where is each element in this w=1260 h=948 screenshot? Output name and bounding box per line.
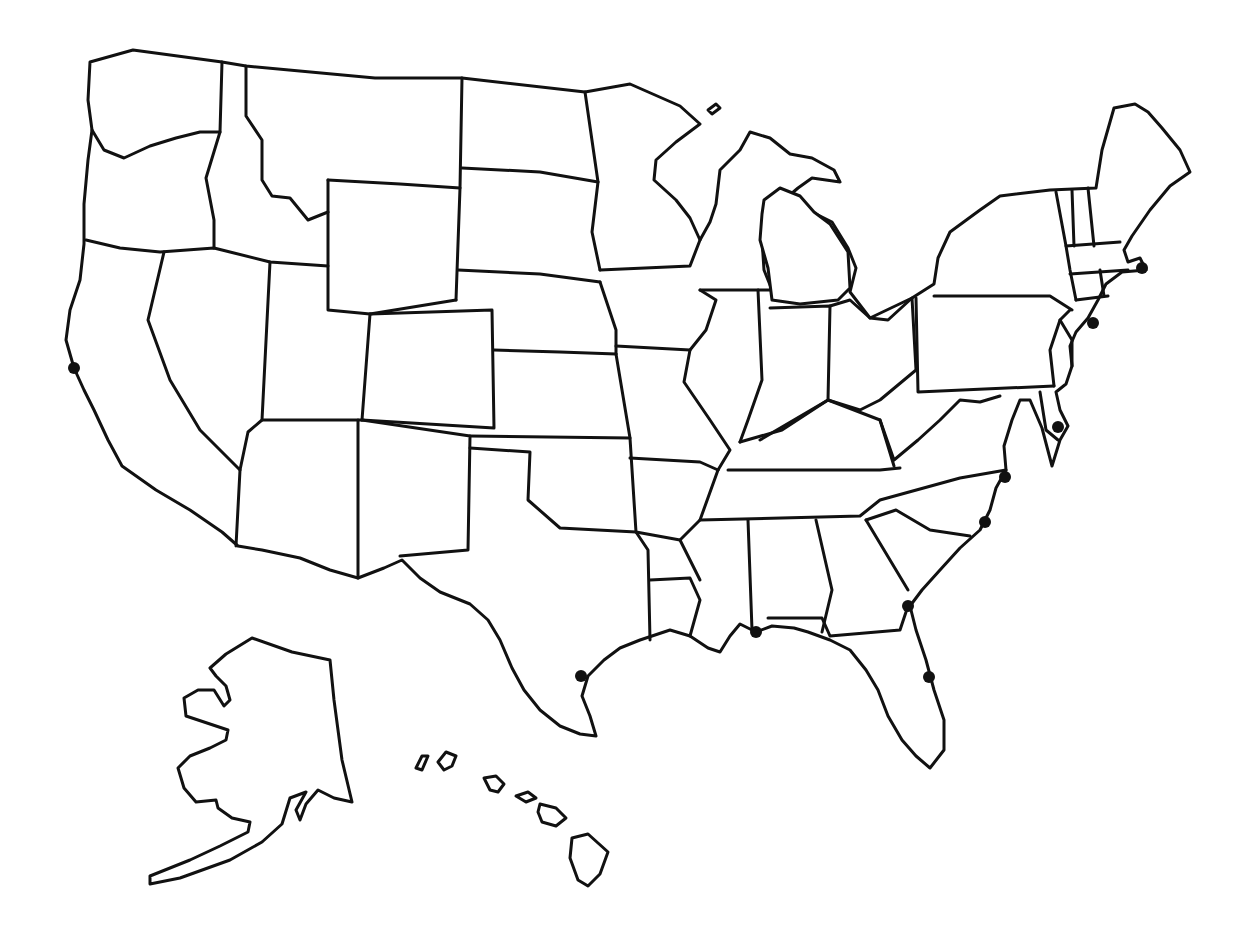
port-marker-savannah <box>902 600 914 612</box>
port-marker-delaware-bay <box>1052 421 1064 433</box>
alaska-outline <box>150 638 352 884</box>
map-canvas <box>0 0 1260 948</box>
port-marker-cape-canaveral <box>923 671 935 683</box>
port-marker-wilmington <box>979 516 991 528</box>
port-marker-san-francisco <box>68 362 80 374</box>
port-marker-boston <box>1136 262 1148 274</box>
port-marker-norfolk <box>999 471 1011 483</box>
port-marker-mobile <box>750 626 762 638</box>
hawaii-islands <box>416 752 608 886</box>
port-marker-new-york <box>1087 317 1099 329</box>
port-marker-houston <box>575 670 587 682</box>
us-outline-map <box>0 0 1260 948</box>
